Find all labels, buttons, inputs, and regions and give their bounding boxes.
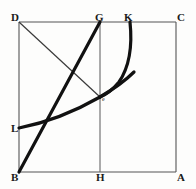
geometry-figure: D G K C L B H A e — [0, 0, 196, 189]
vertex-label-D: D — [11, 12, 19, 23]
curve-LE — [19, 72, 134, 128]
vertex-label-C: C — [177, 12, 185, 23]
vertex-label-H: H — [96, 172, 105, 183]
vertex-label-B: B — [11, 172, 18, 183]
vertex-label-A: A — [177, 172, 185, 183]
line-DE — [19, 22, 100, 97]
vertex-label-G: G — [95, 12, 104, 23]
vertex-label-K: K — [124, 12, 133, 23]
vertex-label-L: L — [11, 123, 18, 134]
line-BG — [19, 22, 100, 172]
curve-KE — [100, 22, 131, 97]
point-label-e: e — [102, 96, 105, 102]
geometry-canvas — [0, 0, 196, 189]
